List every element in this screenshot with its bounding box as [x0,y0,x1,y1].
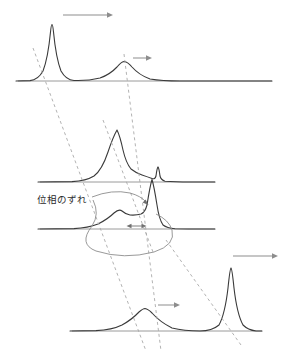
callout-leader-upper [92,192,146,202]
arrow-head-icon [272,253,278,258]
phase-shift-figure: 位相のずれ [0,0,285,351]
guide-line-lower-sharp [103,120,153,252]
callout-leader-loop [86,200,173,256]
phase-shift-label: 位相のずれ [37,194,87,205]
bottom-spectrum-curve [70,268,262,331]
arrow-head-left-icon [127,224,132,228]
bottom-broad-peak-drift-arrow [158,302,180,307]
phase-shift-callout: 位相のずれ [37,192,173,256]
bottom-sharp-peak-drift-arrow [233,253,278,258]
middle-upper-spectrum-curve [38,130,215,182]
guide-line-broad-peak [124,54,161,351]
bottom-spectrum-panel [70,253,278,331]
top-sharp-peak-drift-arrow [63,12,113,17]
top-broad-peak-drift-arrow [133,55,152,60]
top-spectrum-curve [16,25,272,82]
arrow-head-icon [174,302,180,307]
arrow-head-icon [107,12,113,17]
arrow-head-icon [146,55,152,60]
top-spectrum-panel [16,12,272,81]
middle-upper-spectrum-panel [38,130,215,182]
spectra-diagram: 位相のずれ [0,0,285,351]
